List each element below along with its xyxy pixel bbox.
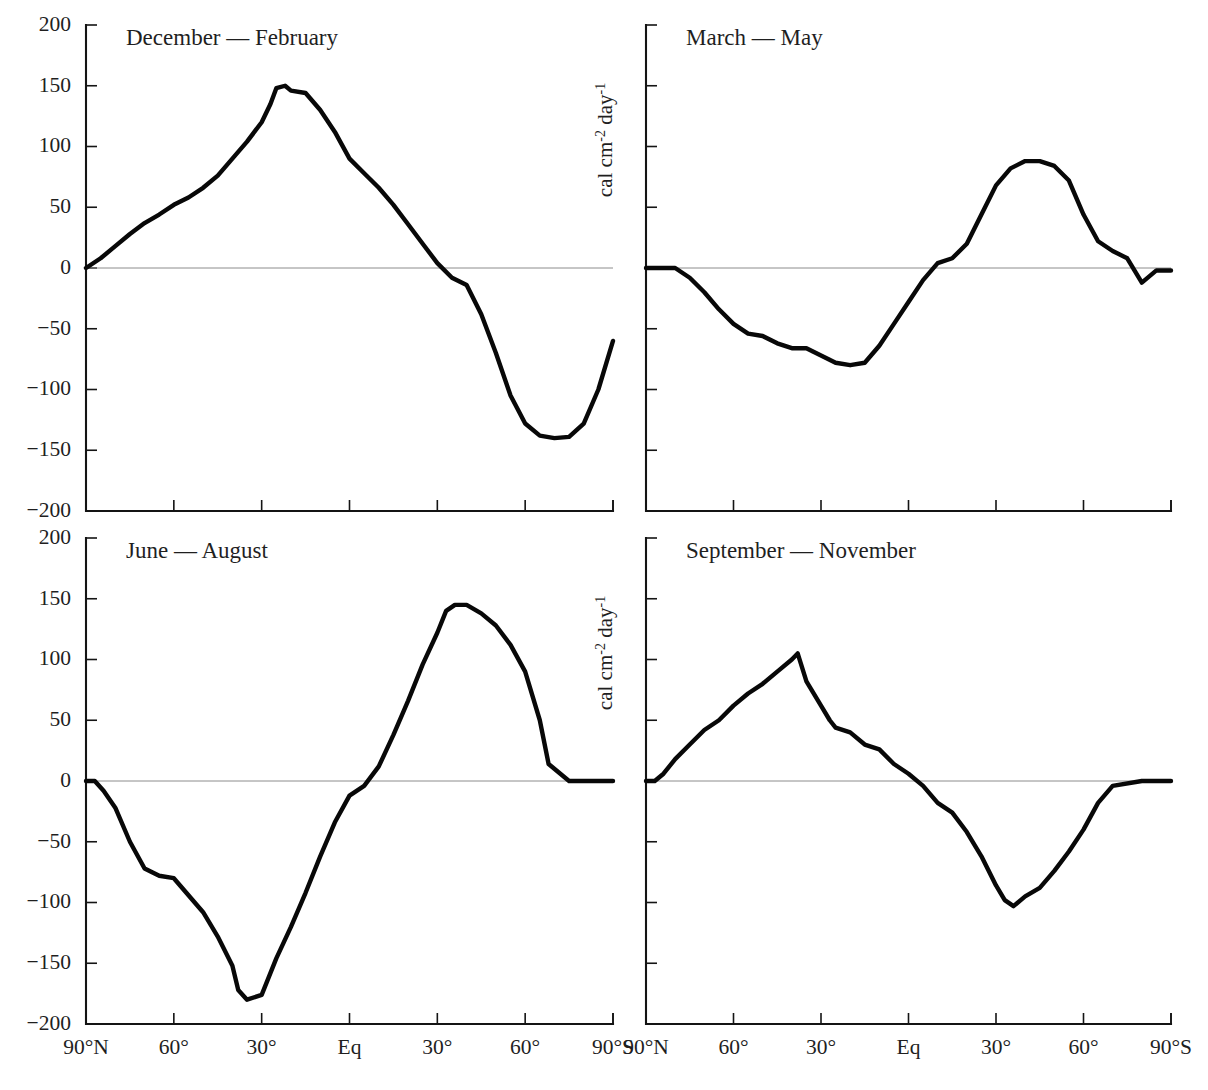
x-tick-label: Eq [338, 1035, 362, 1059]
y-tick-label: 200 [39, 12, 71, 36]
chart-panel-2: 200150100500−50−100−150−20090°N60°30°Eq3… [27, 525, 634, 1059]
y-tick-label: 50 [50, 194, 72, 218]
chart-panel-3: 90°N60°30°Eq30°60°90°SSeptember — Novemb… [623, 538, 1192, 1059]
y-tick-label: −200 [27, 498, 71, 522]
y-tick-label: −150 [27, 950, 71, 974]
y-tick-label: 0 [60, 768, 71, 792]
y-tick-label: 100 [39, 133, 71, 157]
data-curve [86, 605, 613, 1000]
y-tick-label: 100 [39, 646, 71, 670]
y-tick-label: −200 [27, 1011, 71, 1035]
x-tick-label: 90°N [623, 1035, 669, 1059]
panel-title: June — August [126, 538, 268, 563]
y-axis-unit-text: cal cm-2 day-1 [593, 596, 617, 710]
y-tick-label: 150 [39, 73, 71, 97]
x-tick-label: 60° [718, 1035, 748, 1059]
panel-title: September — November [686, 538, 916, 563]
x-tick-label: Eq [897, 1035, 921, 1059]
y-tick-label: 200 [39, 525, 71, 549]
panel-title: December — February [126, 25, 339, 50]
y-tick-label: −50 [37, 829, 71, 853]
chart-panel-1: March — May [646, 25, 1171, 511]
y-tick-label: 150 [39, 586, 71, 610]
data-curve [646, 653, 1171, 906]
y-tick-label: −100 [27, 889, 71, 913]
y-axis-unit-text: cal cm-2 day-1 [593, 83, 617, 197]
panel-title: March — May [686, 25, 823, 50]
x-tick-label: 30° [981, 1035, 1011, 1059]
climate-radiation-figure: 200150100500−50−100−150−200December — Fe… [0, 0, 1208, 1090]
data-curve [646, 161, 1171, 365]
x-tick-label: 90°N [63, 1035, 109, 1059]
chart-panel-0: 200150100500−50−100−150−200December — Fe… [27, 12, 613, 522]
y-tick-label: −100 [27, 376, 71, 400]
y-tick-label: −150 [27, 437, 71, 461]
x-tick-label: 60° [1068, 1035, 1098, 1059]
y-tick-label: 50 [50, 707, 72, 731]
x-tick-label: 90°S [1150, 1035, 1192, 1059]
four-panel-line-chart: 200150100500−50−100−150−200December — Fe… [0, 0, 1208, 1090]
x-tick-label: 60° [159, 1035, 189, 1059]
data-curve [86, 86, 613, 438]
x-tick-label: 30° [806, 1035, 836, 1059]
x-tick-label: 60° [510, 1035, 540, 1059]
x-tick-label: 30° [422, 1035, 452, 1059]
x-tick-label: 30° [247, 1035, 277, 1059]
y-tick-label: 0 [60, 255, 71, 279]
y-tick-label: −50 [37, 316, 71, 340]
y-axis-unit-label: cal cm-2 day-1 [593, 596, 617, 710]
y-axis-unit-label: cal cm-2 day-1 [593, 83, 617, 197]
